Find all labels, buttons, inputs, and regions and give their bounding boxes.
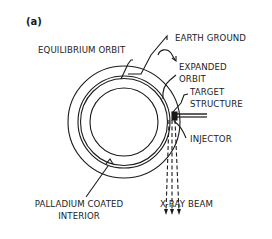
inner-chamber-wall bbox=[90, 88, 158, 156]
palladium-ring bbox=[81, 79, 168, 166]
label-target-structure-line2: STRUCTURE bbox=[190, 99, 243, 110]
label-palladium-line2: INTERIOR bbox=[18, 211, 140, 222]
earth-ground-leader bbox=[128, 36, 167, 74]
expanded-orbit-ring bbox=[78, 76, 170, 168]
label-expanded-orbit-line2: ORBIT bbox=[179, 74, 206, 85]
label-expanded-orbit-line1: EXPANDED bbox=[179, 62, 227, 73]
panel-label: (a) bbox=[26, 16, 42, 27]
target-structure bbox=[172, 112, 177, 120]
outer-chamber-wall bbox=[68, 66, 180, 178]
label-injector: INJECTOR bbox=[190, 134, 232, 145]
label-target-structure-line1: TARGET bbox=[190, 87, 224, 98]
label-xray-beam: X-RAY BEAM bbox=[160, 199, 213, 210]
expanded-orbit-leader bbox=[163, 75, 176, 99]
label-equilibrium-orbit: EQUILIBRIUM ORBIT bbox=[38, 45, 125, 56]
label-earth-ground: EARTH GROUND bbox=[175, 33, 246, 44]
label-palladium-line1: PALLADIUM COATED bbox=[18, 199, 140, 210]
